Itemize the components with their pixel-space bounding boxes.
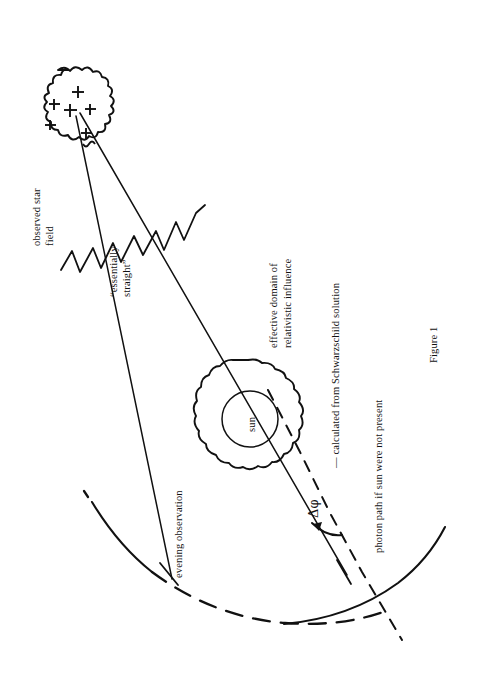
figure-caption-text: Figure 1 [428, 327, 439, 364]
label-photon-path: photon path if sun were not present [373, 400, 384, 553]
figure-root: observed star field “essentially straigh… [0, 0, 482, 679]
effective-domain-line2: relativistic influence [282, 259, 293, 348]
calculated-from-schwarzschild-text: — calculated from Schwarzschild solution [330, 282, 341, 469]
label-calculated-from-schwarzschild: — calculated from Schwarzschild solution [330, 282, 341, 469]
effective-domain-line1: effective domain of [268, 263, 279, 348]
sun-text: sun [246, 416, 257, 432]
figure-caption: Figure 1 [428, 327, 439, 364]
figure-background [0, 0, 482, 679]
label-sun: sun [246, 416, 257, 432]
observed-star-field-line2: field [44, 225, 55, 246]
essentially-straight-line1: “essentially [108, 246, 119, 297]
label-evening-observation: evening observation [173, 490, 184, 578]
photon-path-text: photon path if sun were not present [373, 400, 384, 553]
light-bending-diagram: observed star field “essentially straigh… [0, 0, 482, 679]
observed-star-field-line1: observed star [31, 188, 42, 246]
essentially-straight-line2: straight” [121, 259, 132, 297]
label-delta-phi: Δφ [306, 499, 321, 518]
delta-phi-text: Δφ [306, 499, 321, 518]
evening-observation-text: evening observation [173, 490, 184, 578]
